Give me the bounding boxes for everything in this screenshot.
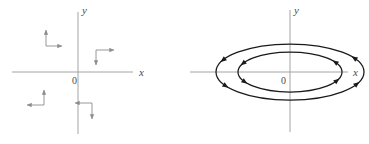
arrow-pair-top-right xyxy=(96,50,114,65)
phase-portrait-panel: y x 0 xyxy=(185,0,369,144)
orbit-arrowhead xyxy=(240,60,246,66)
orbit-arrowhead xyxy=(333,78,339,84)
orbit-arrowhead xyxy=(351,56,358,61)
orbit-arrowhead xyxy=(222,82,229,87)
origin-label: 0 xyxy=(72,75,77,86)
vector-field-panel: y x 0 xyxy=(0,0,185,144)
x-axis-label: x xyxy=(138,66,144,78)
x-axis-label: x xyxy=(352,66,358,78)
left-axes xyxy=(12,12,133,134)
y-axis-label: y xyxy=(81,4,87,16)
right-axes xyxy=(190,10,348,132)
y-axis-label: y xyxy=(293,4,299,16)
origin-label: 0 xyxy=(281,75,286,86)
arrow-pair-top-left xyxy=(46,30,62,46)
figure-container: y x 0 xyxy=(0,0,369,144)
arrow-pair-bottom-left xyxy=(27,90,44,105)
